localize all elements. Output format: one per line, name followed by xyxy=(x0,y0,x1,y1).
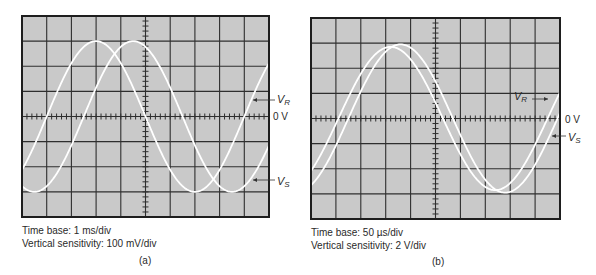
zero-volt-label-b: 0 V xyxy=(565,114,580,125)
trace-subscript: R xyxy=(521,95,527,104)
caption-a: Time base: 1 ms/div Vertical sensitivity… xyxy=(22,224,157,250)
trace-label-vr-a: VR xyxy=(277,93,290,107)
oscilloscope-grid-a xyxy=(22,16,269,217)
caption-b: Time base: 50 µs/div Vertical sensitivit… xyxy=(311,226,426,252)
time-base-b: Time base: 50 µs/div xyxy=(311,226,426,239)
panel-label-b: (b) xyxy=(432,256,444,267)
oscilloscope-screen-b xyxy=(311,18,560,219)
oscilloscope-screen-a xyxy=(22,16,269,217)
vertical-sensitivity-b: Vertical sensitivity: 2 V/div xyxy=(311,239,426,252)
oscilloscope-grid-b xyxy=(311,18,560,219)
trace-label-vs-b: VS xyxy=(568,131,581,145)
trace-label-vr-b: VR xyxy=(514,90,527,104)
zero-volt-label-a: 0 V xyxy=(273,111,288,122)
vertical-sensitivity-a: Vertical sensitivity: 100 mV/div xyxy=(22,237,157,250)
trace-subscript: S xyxy=(575,136,580,145)
panel-label-a: (a) xyxy=(139,255,151,266)
trace-subscript: S xyxy=(284,180,289,189)
time-base-a: Time base: 1 ms/div xyxy=(22,224,157,237)
trace-subscript: R xyxy=(284,98,290,107)
trace-label-vs-a: VS xyxy=(277,175,290,189)
